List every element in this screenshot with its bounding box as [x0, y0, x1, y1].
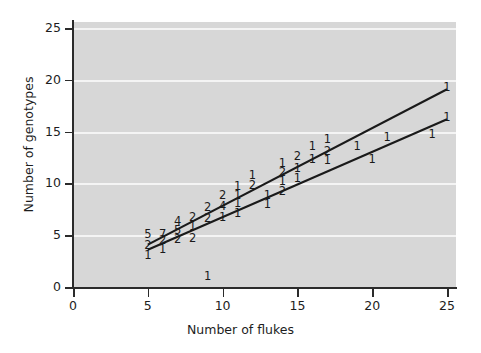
- x-tick-0: [73, 289, 75, 297]
- y-tick-label-15: 15: [21, 126, 61, 139]
- data-point-count-label: 1: [157, 244, 169, 256]
- y-tick-label-25: 25: [21, 22, 61, 35]
- data-point-count-label: 1: [366, 154, 378, 166]
- data-point-count-label: 1: [441, 112, 453, 124]
- y-tick-10: [65, 183, 73, 185]
- y-tick-5: [65, 235, 73, 237]
- scatter-plot-figure: Number of flukes Number of genotypes 051…: [0, 0, 481, 353]
- plot-area: [74, 22, 456, 287]
- data-point-count-label: 1: [381, 132, 393, 144]
- gridline-y-5: [74, 235, 456, 237]
- data-point-count-label: 1: [232, 208, 244, 220]
- x-tick-20: [372, 289, 374, 297]
- gridline-y-15: [74, 132, 456, 134]
- x-tick-label-0: 0: [53, 300, 93, 313]
- data-point-count-label: 2: [276, 186, 288, 198]
- y-tick-25: [65, 28, 73, 30]
- data-point-count-label: 1: [441, 82, 453, 94]
- x-tick-label-10: 10: [203, 300, 243, 313]
- data-point-count-label: 2: [187, 233, 199, 245]
- y-tick-label-0: 0: [21, 281, 61, 294]
- data-point-count-label: 1: [261, 199, 273, 211]
- x-tick-label-5: 5: [128, 300, 168, 313]
- y-tick-label-20: 20: [21, 74, 61, 87]
- data-point-count-label: 1: [306, 154, 318, 166]
- gridline-y-10: [74, 183, 456, 185]
- y-tick-15: [65, 132, 73, 134]
- x-tick-5: [148, 289, 150, 297]
- data-point-count-label: 1: [426, 129, 438, 141]
- data-point-count-label: 2: [172, 234, 184, 246]
- x-tick-label-25: 25: [427, 300, 467, 313]
- data-point-count-label: 2: [247, 180, 259, 192]
- x-tick-label-15: 15: [277, 300, 317, 313]
- x-tick-label-20: 20: [352, 300, 392, 313]
- x-tick-15: [297, 289, 299, 297]
- gridline-y-25: [74, 28, 456, 30]
- y-tick-20: [65, 80, 73, 82]
- y-tick-0: [65, 287, 73, 289]
- y-tick-label-10: 10: [21, 177, 61, 190]
- y-axis-line: [72, 20, 74, 289]
- data-point-count-label: 1: [202, 271, 214, 283]
- x-axis-title: Number of flukes: [0, 322, 481, 337]
- data-point-count-label: 1: [217, 212, 229, 224]
- data-point-count-label: 1: [351, 141, 363, 153]
- data-point-count-label: 1: [142, 250, 154, 262]
- x-axis-line: [72, 287, 457, 289]
- gridline-y-20: [74, 80, 456, 82]
- x-tick-10: [223, 289, 225, 297]
- data-point-count-label: 1: [321, 155, 333, 167]
- x-tick-25: [447, 289, 449, 297]
- y-tick-label-5: 5: [21, 229, 61, 242]
- data-point-count-label: 2: [202, 213, 214, 225]
- data-point-count-label: 1: [291, 173, 303, 185]
